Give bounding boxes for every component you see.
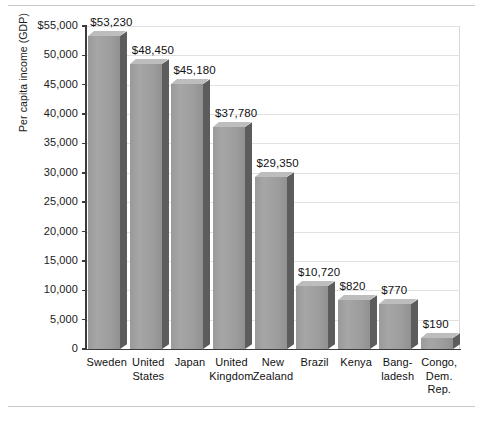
x-category-label: Congo,Dem.Rep. (414, 356, 464, 397)
chart-figure: 05,00010,00015,00020,00025,00030,00035,0… (0, 0, 483, 424)
x-category-label-line: Congo, (414, 356, 464, 370)
x-category-label-line: Rep. (414, 383, 464, 397)
x-axis-category-labels-group: SwedenUnitedStatesJapanUnitedKingdomNewZ… (0, 0, 483, 424)
x-category-label-line: Zealand (248, 370, 298, 384)
x-category-label-line: Dem. (414, 370, 464, 384)
x-category-label-line: States (124, 370, 174, 384)
